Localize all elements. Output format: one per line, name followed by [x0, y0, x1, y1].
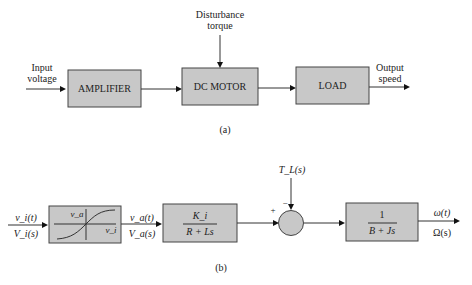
- dc-motor-label: DC MOTOR: [182, 81, 258, 92]
- input-laplace-label: V_i(s): [8, 228, 44, 239]
- plus-sign: +: [268, 206, 278, 216]
- motor-numerator: K_i: [163, 210, 237, 221]
- omega-laplace-label: Ω(s): [424, 227, 460, 238]
- caption-b: (b): [206, 262, 236, 273]
- omega-time-label: ω(t): [424, 207, 460, 218]
- disturbance-torque-label: Disturbancetorque: [185, 9, 255, 31]
- disturbance-tl-label: T_L(s): [274, 164, 310, 175]
- input-voltage-label: Inputvoltage: [22, 62, 62, 84]
- diagram-canvas: [0, 0, 472, 285]
- amplifier-label: AMPLIFIER: [68, 83, 141, 94]
- motor-denominator: R + Ls: [163, 226, 237, 237]
- input-time-label: v_i(t): [8, 212, 44, 223]
- caption-a: (a): [210, 124, 240, 135]
- va-time-label: v_a(t): [124, 212, 160, 223]
- curve-x-label: v_i: [104, 226, 118, 236]
- minus-sign: −: [280, 199, 290, 209]
- curve-y-label: v_a: [70, 210, 84, 220]
- load-denominator: B + Js: [346, 225, 418, 236]
- va-laplace-label: V_a(s): [124, 228, 160, 239]
- output-speed-label: Outputspeed: [372, 62, 408, 84]
- load-label: LOAD: [296, 80, 369, 91]
- summing-junction: [279, 211, 304, 236]
- load-numerator: 1: [346, 209, 418, 220]
